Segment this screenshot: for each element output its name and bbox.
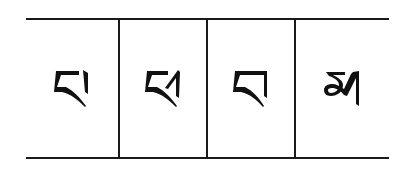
- table-cell-pa: པ: [26, 20, 118, 157]
- tibetan-pa-glyph: [52, 68, 92, 110]
- tibetan-ma-glyph: [323, 68, 363, 110]
- table-cell-ba: བ: [208, 20, 294, 157]
- table-cell-pha: ཕ: [120, 20, 206, 157]
- table-cell-ma: མ: [296, 20, 389, 157]
- tibetan-ba-glyph: [231, 68, 271, 110]
- tibetan-pha-glyph: [143, 68, 183, 110]
